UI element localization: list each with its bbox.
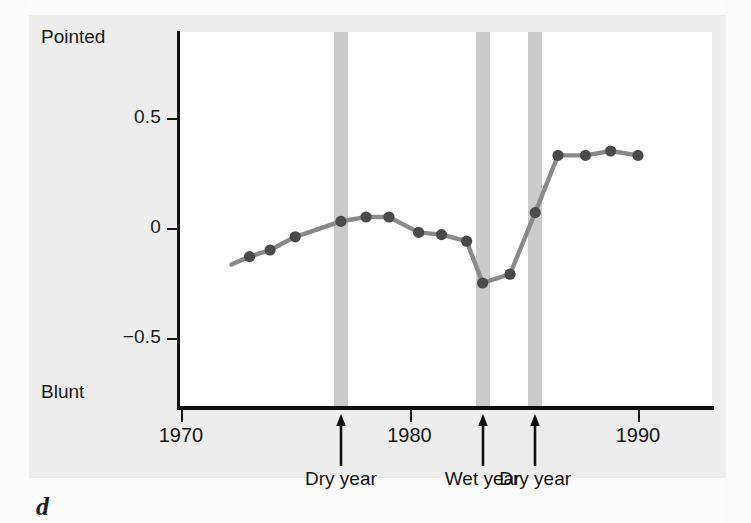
- x-axis-line: [177, 406, 714, 410]
- event-band-dry-year-2: [528, 32, 542, 408]
- event-band-wet-year-1: [476, 32, 490, 408]
- y-tick-label-0: 0.5: [61, 106, 161, 128]
- figure-screenshot: 0.50−0.5 197019801990 Dry yearWet yearDr…: [0, 0, 751, 523]
- annotation-arrow-1: [477, 414, 489, 466]
- annotation-label-dry-year-2: Dry year: [499, 468, 571, 490]
- plot-area: [178, 32, 712, 408]
- annotation-arrow-0: [335, 414, 347, 466]
- x-tick-0: [181, 410, 183, 422]
- y-tick-0: [167, 118, 178, 120]
- x-tick-2: [638, 410, 640, 422]
- event-band-dry-year-0: [334, 32, 348, 408]
- page-edge-right: [726, 0, 751, 523]
- figure-part-letter: d: [36, 492, 49, 522]
- y-axis-line: [177, 31, 180, 409]
- page-edge-top: [0, 0, 751, 15]
- y-tick-1: [167, 228, 178, 230]
- y-tick-label-1: 0: [61, 216, 161, 238]
- x-tick-label-0: 1970: [159, 424, 204, 447]
- x-tick-1: [410, 410, 412, 422]
- x-tick-label-1: 1980: [387, 424, 432, 447]
- page-edge-left: [0, 0, 29, 523]
- y-axis-pole-label-bottom: Blunt: [41, 381, 84, 403]
- y-axis-pole-label-top: Pointed: [41, 26, 105, 48]
- y-tick-label-2: −0.5: [61, 326, 161, 348]
- annotation-label-dry-year-0: Dry year: [305, 468, 377, 490]
- y-tick-2: [167, 338, 178, 340]
- annotation-arrow-2: [529, 414, 541, 466]
- x-tick-label-2: 1990: [616, 424, 661, 447]
